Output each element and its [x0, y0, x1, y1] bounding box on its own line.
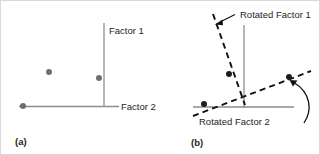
- panel-a-caption: (a): [15, 136, 27, 147]
- panel-b-rotated-factor-2-axis: [193, 71, 311, 116]
- figure-canvas: Factor 1 Factor 2 (a): [1, 1, 320, 155]
- panel-b-caption: (b): [191, 137, 203, 148]
- panel-a-vertical-axis-label: Factor 1: [109, 25, 144, 36]
- panel-b-point-upper-right: [286, 74, 292, 80]
- panel-b-point-on-rotated-factor-1: [226, 71, 232, 77]
- panel-a-horizontal-axis-label: Factor 2: [121, 101, 156, 112]
- panel-a-point-upper-middle: [46, 69, 52, 75]
- panel-a-point-left-on-axis: [20, 103, 26, 109]
- panel-a-point-right: [96, 75, 102, 81]
- panel-a: Factor 1 Factor 2 (a): [15, 23, 156, 147]
- panel-b-rotated-factor-2-label: Rotated Factor 2: [199, 116, 270, 127]
- panel-b: Rotated Factor 1 Rotated Factor 2 (b): [191, 9, 311, 148]
- factor-rotation-figure: Factor 1 Factor 2 (a): [0, 0, 320, 155]
- panel-b-rotated-factor-1-axis: [213, 14, 245, 105]
- panel-b-rotated-factor-1-label: Rotated Factor 1: [240, 9, 311, 20]
- panel-b-point-lower-left: [201, 101, 207, 107]
- rotation-curved-arrowhead: [290, 80, 298, 87]
- rotation-curved-arrow-path: [293, 82, 309, 123]
- rotated-factor-1-pointer-arrowhead: [215, 20, 223, 26]
